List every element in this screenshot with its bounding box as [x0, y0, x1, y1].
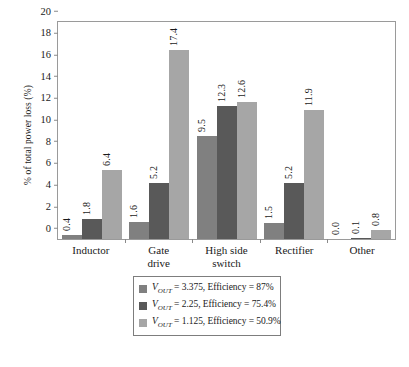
legend-color-swatch: [139, 319, 147, 327]
x-axis-label-line: Rectifier: [260, 244, 328, 257]
bar-value-label: 12.6: [237, 80, 247, 98]
bar[interactable]: 1.5: [264, 223, 284, 239]
x-axis-label: High sideswitch: [193, 244, 261, 270]
y-axis-tick: 8: [46, 136, 58, 147]
y-axis-tick-label: 10: [41, 115, 55, 126]
y-axis-tick-label: 8: [46, 136, 54, 147]
y-axis-tick: 16: [41, 50, 59, 61]
y-axis-tick-label: 0: [46, 223, 54, 234]
bar-slot: 17.4: [169, 22, 189, 239]
bar[interactable]: 1.8: [82, 219, 102, 239]
bar-slot: 9.5: [197, 22, 217, 239]
x-axis-label: Other: [328, 244, 396, 270]
x-axis-category-separator: [260, 239, 261, 243]
legend-item[interactable]: VOUT = 1.125, Efficiency = 50.9%: [139, 314, 275, 331]
x-axis-label-line: drive: [125, 257, 193, 270]
y-axis-tick: 18: [41, 28, 59, 39]
bar-value-label: 0.1: [351, 221, 361, 234]
bar-slot: 12.6: [237, 22, 257, 239]
y-axis-tick: 14: [41, 71, 59, 82]
bar-group: 1.65.217.4: [125, 22, 192, 239]
bar[interactable]: 0.8: [371, 230, 391, 239]
y-axis-tick: 12: [41, 93, 59, 104]
legend-label-rest: = 3.375, Efficiency = 87%: [172, 282, 274, 292]
bar[interactable]: 11.9: [304, 110, 324, 239]
y-axis-tick-label: 2: [46, 202, 54, 213]
chart-legend: VOUT = 3.375, Efficiency = 87%VOUT = 2.2…: [133, 276, 281, 336]
bar-cluster: 9.512.312.6: [197, 22, 257, 239]
bar-value-label: 12.3: [217, 83, 227, 101]
y-axis-title: % of total power loss (%): [23, 60, 33, 210]
y-axis-tick-label: 4: [46, 180, 54, 191]
x-axis-category-separator: [327, 239, 328, 243]
x-axis-label-line: switch: [193, 257, 261, 270]
bar[interactable]: 9.5: [197, 136, 217, 239]
x-axis-label: Gatedrive: [125, 244, 193, 270]
bar-slot: 1.5: [264, 22, 284, 239]
legend-label: VOUT = 1.125, Efficiency = 50.9%: [152, 317, 281, 329]
bar[interactable]: 1.6: [129, 222, 149, 239]
legend-vout-subscript: OUT: [158, 303, 172, 311]
y-axis-tick-label: 16: [41, 50, 55, 61]
bar-value-label: 9.5: [197, 119, 207, 132]
x-axis-label-line: Inductor: [57, 244, 125, 257]
bar-value-label: 17.4: [169, 28, 179, 46]
bar-groups-container: 0.41.86.41.65.217.49.512.312.61.55.211.9…: [58, 22, 395, 239]
bar-slot: 0.8: [371, 22, 391, 239]
x-axis-label-line: Gate: [125, 244, 193, 257]
y-axis-tick-label: 20: [41, 6, 55, 17]
bar-value-label: 11.9: [304, 88, 314, 106]
bar-slot: 0.0: [331, 22, 351, 239]
y-axis-tick: 2: [46, 202, 58, 213]
x-axis-label: Rectifier: [260, 244, 328, 270]
bar-slot: 1.6: [129, 22, 149, 239]
bar[interactable]: 12.3: [217, 106, 237, 239]
x-axis-label-line: Other: [328, 244, 396, 257]
legend-vout-subscript: OUT: [158, 320, 172, 328]
bar-value-label: 1.6: [129, 205, 139, 218]
legend-vout-symbol: VOUT: [152, 299, 172, 309]
bar-value-label: 0.0: [331, 222, 341, 235]
bar-cluster: 0.41.86.4: [62, 22, 122, 239]
bar-slot: 5.2: [284, 22, 304, 239]
bar-value-label: 5.2: [149, 165, 159, 178]
y-axis-tick-label: 12: [41, 93, 55, 104]
bar-group: 9.512.312.6: [193, 22, 260, 239]
legend-label: VOUT = 3.375, Efficiency = 87%: [152, 283, 274, 295]
bar[interactable]: 0.1: [351, 238, 371, 239]
bar[interactable]: 17.4: [169, 50, 189, 239]
legend-label: VOUT = 2.25, Efficiency = 75.4%: [152, 300, 276, 312]
bar[interactable]: 5.2: [284, 183, 304, 239]
y-axis-tick-label: 14: [41, 71, 55, 82]
plot-area: 02468101214161820 0.41.86.41.65.217.49.5…: [57, 21, 396, 240]
legend-vout-symbol: VOUT: [152, 316, 172, 326]
bar-slot: 0.1: [351, 22, 371, 239]
bar-slot: 12.3: [217, 22, 237, 239]
legend-vout-subscript: OUT: [158, 286, 172, 294]
bar-slot: 1.8: [82, 22, 102, 239]
legend-item[interactable]: VOUT = 3.375, Efficiency = 87%: [139, 280, 275, 297]
x-axis-category-separator: [125, 239, 126, 243]
bar-cluster: 1.65.217.4: [129, 22, 189, 239]
y-axis-tick-label: 18: [41, 28, 55, 39]
bar-cluster: 1.55.211.9: [264, 22, 324, 239]
bar-group: 1.55.211.9: [260, 22, 327, 239]
bar-value-label: 5.2: [284, 165, 294, 178]
bar[interactable]: 0.4: [62, 235, 82, 239]
y-axis-tick: 4: [46, 180, 58, 191]
legend-vout-symbol: VOUT: [152, 282, 172, 292]
bar[interactable]: 12.6: [237, 102, 257, 239]
y-axis-tick: 20: [41, 6, 59, 17]
legend-color-swatch: [139, 285, 147, 293]
legend-label-rest: = 1.125, Efficiency = 50.9%: [172, 316, 281, 326]
x-axis-label: Inductor: [57, 244, 125, 270]
bar-slot: 6.4: [102, 22, 122, 239]
y-axis-tick: 6: [46, 158, 58, 169]
y-axis-tick: 0: [46, 223, 58, 234]
bar[interactable]: 6.4: [102, 170, 122, 239]
bar[interactable]: 5.2: [149, 183, 169, 239]
legend-color-swatch: [139, 302, 147, 310]
bar-group: 0.00.10.8: [328, 22, 395, 239]
bar-cluster: 0.00.10.8: [331, 22, 391, 239]
legend-item[interactable]: VOUT = 2.25, Efficiency = 75.4%: [139, 297, 275, 314]
